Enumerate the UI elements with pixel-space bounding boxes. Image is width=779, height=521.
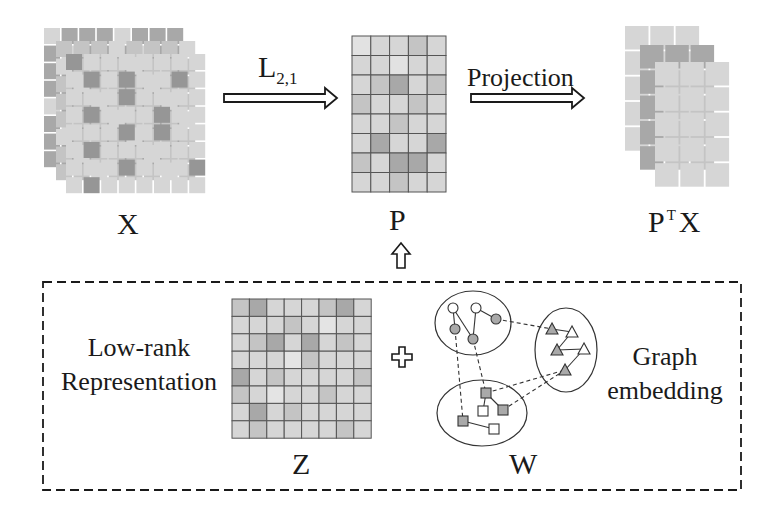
p-cell [371, 56, 390, 76]
x-cell [119, 72, 135, 88]
z-cell [302, 369, 319, 386]
z-cell [249, 403, 266, 420]
z-cell [267, 316, 284, 333]
z-cell [319, 334, 336, 351]
z-cell [284, 316, 301, 333]
l21-label-base: L [258, 50, 276, 83]
l21-label: L2,1 [258, 52, 298, 87]
x-cell [119, 89, 135, 105]
z-cell [302, 299, 319, 316]
p-cell [352, 36, 371, 56]
l21-arrow-icon [224, 88, 337, 108]
p-cell [408, 153, 427, 173]
p-cell [371, 114, 390, 134]
ptx-cell [680, 113, 704, 137]
p-matrix [352, 36, 446, 192]
ptx-matrix-stack [625, 26, 729, 187]
z-cell [354, 299, 371, 316]
w-label: W [509, 449, 537, 479]
low-rank-line2: Representation [50, 369, 228, 395]
x-cell [154, 142, 170, 158]
x-cell [172, 89, 188, 105]
x-cell [172, 142, 188, 158]
p-cell [371, 134, 390, 154]
x-cell [119, 54, 135, 70]
triangle-node-icon [578, 343, 590, 354]
p-cell [352, 75, 371, 95]
ptx-label-sup: T [667, 207, 676, 223]
x-cell [66, 124, 82, 140]
p-cell [427, 95, 446, 115]
ptx-cell [680, 87, 704, 111]
x-cell [154, 89, 170, 105]
z-matrix [232, 299, 371, 438]
x-cell [136, 124, 152, 140]
circle-node-icon [491, 314, 501, 324]
x-cell [154, 124, 170, 140]
ptx-cell [706, 163, 730, 187]
p-cell [427, 114, 446, 134]
p-cell [371, 36, 390, 56]
z-cell [267, 369, 284, 386]
x-cell [84, 160, 100, 176]
z-cell [336, 403, 353, 420]
x-cell [136, 142, 152, 158]
z-cell [302, 421, 319, 438]
ptx-cell [706, 62, 730, 86]
z-cell [284, 299, 301, 316]
x-cell [66, 177, 82, 193]
z-cell [284, 369, 301, 386]
z-cell [302, 316, 319, 333]
z-cell [319, 316, 336, 333]
x-cell [189, 177, 205, 193]
p-cell [427, 56, 446, 76]
square-node-icon [481, 388, 491, 398]
square-node-icon [498, 405, 508, 415]
p-cell [390, 173, 409, 193]
p-cell [352, 173, 371, 193]
x-cell [189, 124, 205, 140]
z-cell [267, 403, 284, 420]
ptx-cell [680, 62, 704, 86]
x-cell [84, 89, 100, 105]
x-cell [136, 177, 152, 193]
circle-node-icon [450, 324, 460, 334]
ptx-cell [655, 62, 679, 86]
x-cell [66, 107, 82, 123]
x-cell [154, 54, 170, 70]
square-node-icon [489, 424, 499, 434]
circle-node-icon [448, 303, 458, 313]
x-cell [66, 54, 82, 70]
z-cell [336, 369, 353, 386]
x-cell [136, 54, 152, 70]
p-cell [408, 95, 427, 115]
w-graph [435, 291, 597, 446]
x-cell [189, 89, 205, 105]
x-cell [136, 72, 152, 88]
p-cell [390, 95, 409, 115]
dashed-edge [473, 339, 486, 393]
z-cell [354, 316, 371, 333]
x-cell [66, 142, 82, 158]
p-cell [390, 75, 409, 95]
ptx-cell [655, 138, 679, 162]
z-cell [336, 316, 353, 333]
z-cell [319, 369, 336, 386]
x-cell [189, 142, 205, 158]
ptx-label: PTX [648, 207, 701, 237]
x-cell [101, 107, 117, 123]
z-cell [267, 351, 284, 368]
x-cell [172, 177, 188, 193]
x-cell [119, 142, 135, 158]
z-cell [336, 421, 353, 438]
p-cell [371, 153, 390, 173]
p-cell [427, 153, 446, 173]
x-cell [189, 107, 205, 123]
circle-node-icon [471, 303, 481, 313]
z-cell [284, 386, 301, 403]
ptx-cell [706, 138, 730, 162]
x-cell [119, 160, 135, 176]
x-cell [136, 89, 152, 105]
x-cell [154, 160, 170, 176]
x-cell [172, 160, 188, 176]
